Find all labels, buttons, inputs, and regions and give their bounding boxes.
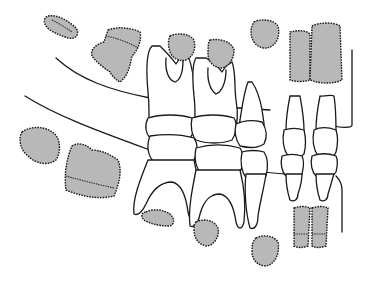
upper-incisor-1-crown — [283, 129, 305, 158]
tooth-germ-14 — [312, 207, 328, 248]
tooth-germ-10 — [142, 210, 174, 226]
tooth-germ-7 — [310, 23, 342, 83]
tooth-germ-8 — [20, 128, 59, 164]
lower-molar-2-roots — [189, 170, 244, 228]
tooth-germ-3 — [169, 34, 195, 61]
lower-incisor-1-root — [286, 174, 302, 201]
tooth-germ-13 — [294, 207, 310, 248]
tooth-germ-12 — [252, 236, 279, 266]
tooth-germ-2 — [92, 28, 141, 82]
tooth-germ-6 — [290, 31, 310, 82]
upper-molar-2-crown — [191, 115, 236, 143]
lower-premolar-root — [245, 174, 266, 229]
tooth-germ-5 — [251, 20, 279, 48]
tooth-germ-11 — [194, 220, 218, 246]
lower-right-jaw-edge — [336, 176, 342, 232]
tooth-germ-1 — [44, 16, 77, 39]
dental-diagram — [0, 0, 366, 281]
upper-premolar-crown — [235, 121, 266, 148]
tooth-germ-9 — [65, 144, 120, 198]
lower-incisor-2-root — [316, 174, 334, 201]
